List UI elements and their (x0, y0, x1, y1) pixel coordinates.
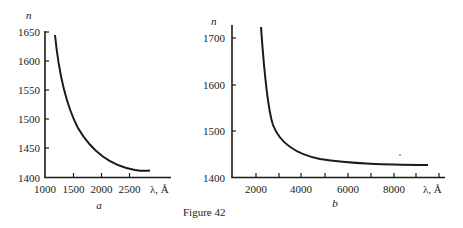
panel-a-y-tick-labels: 1650 1600 1550 1500 1450 1400 (18, 26, 41, 184)
speck-mark (399, 154, 401, 156)
tick-label: 1500 (18, 113, 41, 125)
tick-label: 1550 (18, 84, 41, 96)
tick-label: 1600 (203, 79, 226, 91)
panel-a-xlabel: λ, Å (150, 183, 169, 195)
tick-label: 2500 (119, 183, 142, 195)
tick-label: 1600 (18, 55, 41, 67)
panel-b-ylabel: n (211, 15, 217, 27)
tick-label: 1000 (34, 183, 57, 195)
panel-b-curve (261, 27, 428, 165)
panel-a-x-tick-labels: 1000 1500 2000 2500 (34, 183, 141, 195)
panel-b-label: b (332, 197, 338, 209)
figure-caption: Figure 42 (183, 206, 225, 218)
tick-label: 4000 (290, 183, 313, 195)
panel-b-y-tick-labels: 1700 1600 1500 1400 (203, 32, 226, 184)
tick-label: 1650 (18, 26, 41, 38)
panel-b: n 1700 1600 1500 1400 2000 (203, 15, 445, 209)
tick-label: 1450 (18, 142, 41, 154)
panel-a-ylabel: n (26, 9, 32, 21)
panel-a-curve (55, 35, 150, 171)
tick-label: 2000 (91, 183, 114, 195)
panel-b-xlabel: λ, Å (423, 183, 442, 195)
tick-label: 1400 (203, 172, 226, 184)
panel-b-x-tick-labels: 2000 4000 6000 8000 (245, 183, 406, 195)
figure-canvas: n 1650 1600 1550 1500 1450 1400 1000 150… (0, 0, 463, 228)
tick-label: 8000 (383, 183, 406, 195)
tick-label: 1500 (203, 125, 226, 137)
tick-label: 1700 (203, 32, 226, 44)
panel-a: n 1650 1600 1550 1500 1450 1400 1000 150… (18, 9, 171, 211)
tick-label: 2000 (245, 183, 268, 195)
panel-a-label: a (96, 199, 102, 211)
tick-label: 1500 (63, 183, 86, 195)
tick-label: 6000 (337, 183, 360, 195)
